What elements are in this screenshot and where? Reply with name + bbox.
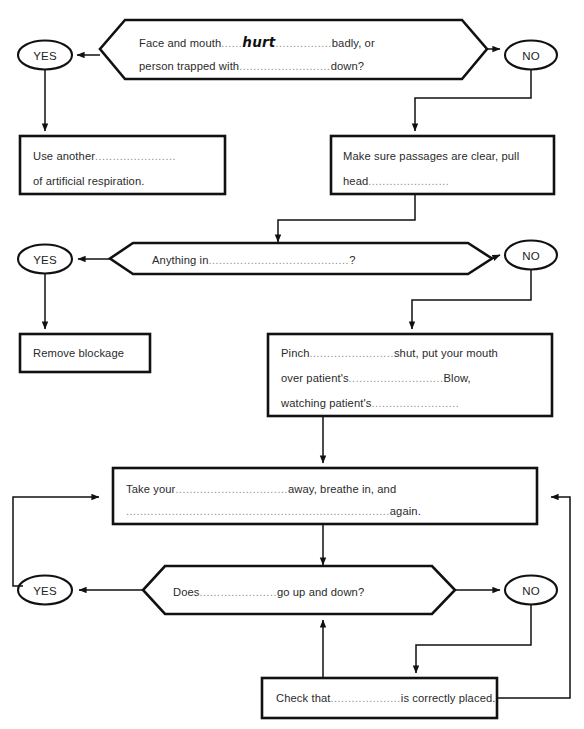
connector-q2-to-no — [492, 255, 500, 259]
ellipse-yes-2[interactable] — [18, 245, 72, 274]
ellipse-yes-1[interactable] — [18, 41, 72, 70]
hexagon-question-3[interactable] — [143, 566, 455, 614]
connector-no2-to-pinch — [412, 270, 531, 329]
connector-yes3-loop-to-take-your — [13, 497, 99, 586]
ellipse-yes-3[interactable] — [18, 576, 72, 605]
box-make-sure[interactable] — [331, 136, 554, 194]
flowchart-page: Face and mouth......hurt................… — [0, 0, 584, 729]
flowchart-connectors-and-shapes — [0, 0, 584, 729]
ellipse-no-2[interactable] — [505, 241, 557, 270]
hexagon-question-2[interactable] — [110, 243, 492, 274]
hexagon-question-1[interactable] — [100, 20, 487, 79]
box-pinch[interactable] — [268, 334, 552, 416]
connector-no3-to-check-that — [416, 605, 531, 673]
box-take-your[interactable] — [113, 468, 537, 524]
connector-make-sure-to-q2 — [278, 194, 415, 242]
box-use-another[interactable] — [20, 136, 225, 194]
box-remove-blockage[interactable] — [20, 334, 150, 372]
ellipse-no-3[interactable] — [505, 576, 557, 605]
box-check-that[interactable] — [262, 678, 497, 718]
ellipse-no-1[interactable] — [505, 41, 557, 70]
